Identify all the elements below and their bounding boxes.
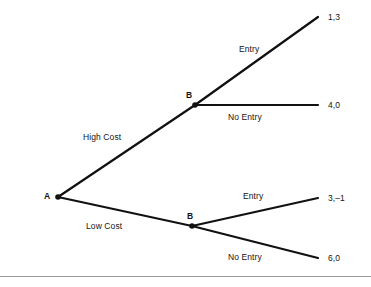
payoff-label-no-entry-low-cost: 6,0 [328,253,340,263]
branch-label-entry-lower: Entry [243,191,263,201]
payoff-label-no-entry-high-cost: 4,0 [328,100,340,110]
node-label-a: A [44,191,50,201]
figure-bottom-rule [0,276,371,277]
game-tree-figure: A B B High Cost Low Cost Entry No Entry … [0,0,371,287]
payoff-label-entry-low-cost: 3,–1 [328,193,345,203]
branch-label-no-entry-upper: No Entry [228,112,262,122]
branch-low-cost [58,197,192,226]
branch-label-low-cost: Low Cost [86,221,122,231]
node-label-b-upper: B [186,90,192,100]
branch-label-entry-upper: Entry [239,44,259,54]
branch-label-high-cost: High Cost [83,132,121,142]
payoff-label-entry-high-cost: 1,3 [328,12,340,22]
branch-entry-lower [192,198,318,226]
node-dot-a [55,194,61,200]
branch-high-cost [58,105,195,197]
node-label-b-lower: B [187,211,193,221]
node-dot-b-upper [192,102,198,108]
branch-label-no-entry-lower: No Entry [228,252,262,262]
branch-entry-upper [195,17,318,105]
tree-node-dots [55,102,198,229]
game-tree-canvas [0,0,371,287]
node-dot-b-lower [189,223,195,229]
